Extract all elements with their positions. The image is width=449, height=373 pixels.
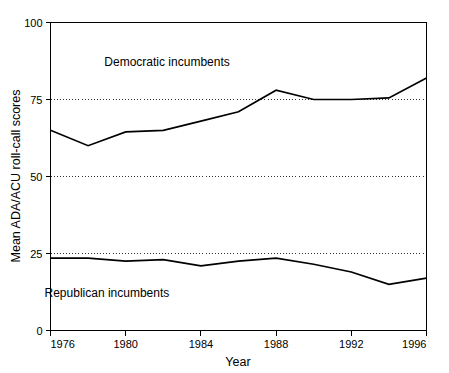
y-tick-label-75: 75 xyxy=(30,94,42,106)
y-tick-label-0: 0 xyxy=(36,325,42,337)
x-tick-label-1976: 1976 xyxy=(51,338,75,350)
x-tick-label-1984: 1984 xyxy=(189,338,213,350)
y-tick-label-50: 50 xyxy=(30,171,42,183)
chart-figure: 0255075100 197619801984198819921996 Demo… xyxy=(0,0,449,373)
x-tick-label-1980: 1980 xyxy=(113,338,137,350)
x-tick-label-1992: 1992 xyxy=(339,338,363,350)
x-tick-label-1988: 1988 xyxy=(264,338,288,350)
y-tick-label-25: 25 xyxy=(30,248,42,260)
y-axis-title: Mean ADA/ACU roll-call scores xyxy=(9,90,23,263)
x-axis-title: Year xyxy=(225,355,250,369)
line-chart: 0255075100 197619801984198819921996 Demo… xyxy=(0,0,449,373)
series-annotation-republican-incumbents: Republican incumbents xyxy=(45,286,170,300)
y-tick-label-100: 100 xyxy=(24,17,42,29)
series-annotation-democratic-incumbents: Democratic incumbents xyxy=(104,55,229,69)
x-tick-label-1996: 1996 xyxy=(402,338,426,350)
